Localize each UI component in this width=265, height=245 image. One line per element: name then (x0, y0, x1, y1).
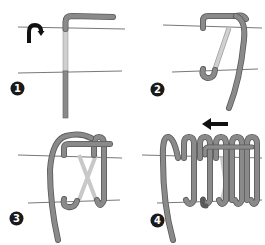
step-number: 4 (154, 215, 161, 226)
panel-step-4: 4 (142, 118, 262, 240)
step-badge-3: 3 (10, 212, 24, 226)
step-number: 2 (154, 84, 161, 95)
wire-lower (63, 71, 68, 118)
left-arrow-icon (202, 118, 228, 130)
step-badge-4: 4 (151, 214, 165, 228)
coil-loops (163, 137, 257, 240)
step-number: 1 (14, 83, 21, 94)
wire-top-bend (66, 16, 114, 29)
top-guide-line (18, 27, 125, 29)
panel-step-2: 2 (151, 15, 263, 108)
wire-hook (64, 199, 78, 207)
step-badge-1: 1 (11, 82, 25, 96)
wire-behind (63, 29, 68, 71)
bottom-guide-line (18, 71, 122, 73)
panel-step-3: 3 (10, 134, 123, 240)
coil-wrapping-diagram: 1 2 (0, 0, 265, 245)
step-number: 3 (13, 213, 20, 224)
step-badge-2: 2 (151, 83, 165, 97)
wire-behind-cross (79, 155, 96, 200)
top-guide-line (163, 25, 262, 28)
panel-step-1: 1 (11, 16, 126, 118)
